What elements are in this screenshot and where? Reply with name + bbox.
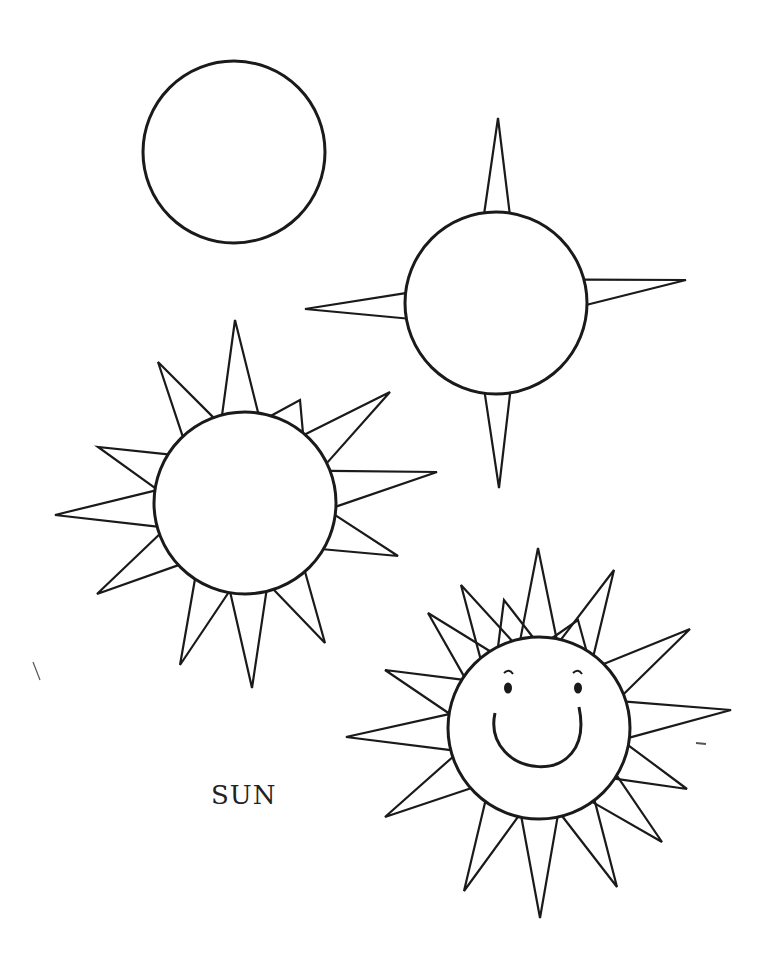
- stray-mark: [696, 743, 706, 744]
- ray-icon: [222, 320, 258, 415]
- sun-circle: [143, 61, 325, 243]
- sun-circle: [154, 412, 336, 594]
- stray-mark: [33, 662, 40, 680]
- ray-icon: [230, 591, 266, 688]
- ray-icon: [521, 817, 557, 918]
- caption-sun: SUN: [211, 780, 276, 810]
- sun-step-4: [346, 548, 731, 918]
- ray-icon: [346, 714, 451, 750]
- left-eye-icon: [504, 683, 512, 694]
- ray-icon: [626, 702, 731, 738]
- sun-step-3: [55, 320, 437, 688]
- right-eye-icon: [574, 683, 582, 694]
- ray-icon: [520, 548, 556, 639]
- sun-drawing-page: SUN: [0, 0, 766, 953]
- sun-steps-illustration: [0, 0, 766, 953]
- sun-step-1: [143, 61, 325, 243]
- ray-icon: [55, 491, 157, 527]
- sun-circle: [448, 637, 630, 819]
- sun-circle: [405, 212, 587, 394]
- ray-icon: [485, 393, 510, 488]
- ray-icon: [330, 471, 437, 507]
- sun-step-2: [305, 118, 686, 488]
- ray-icon: [305, 293, 406, 318]
- ray-icon: [584, 280, 686, 305]
- ray-icon: [484, 118, 509, 213]
